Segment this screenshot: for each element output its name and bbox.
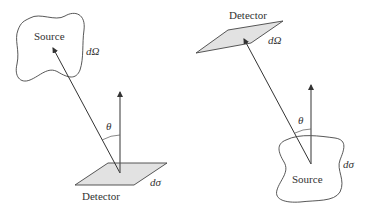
right-scatter-arrow [244,39,311,164]
right-angle-arc [295,129,311,133]
right-detector-label: Detector [229,9,267,21]
left-solid-angle-label: dΩ [86,45,100,57]
left-panel: Source dΩ dσ Detector θ [16,13,167,202]
right-source-region [277,136,344,203]
right-panel: Detector dΩ Source dσ θ [196,9,355,202]
right-source-label: Source [292,173,323,185]
left-source-region [16,13,84,81]
scattering-geometry-diagram: Source dΩ dσ Detector θ Detector dΩ Sour… [0,0,373,210]
left-detector-label: Detector [82,190,120,202]
right-angle-label: θ [298,114,304,126]
right-source-area-label: dσ [343,158,355,170]
left-source-label: Source [34,30,65,42]
left-angle-arc [102,135,120,140]
left-angle-label: θ [106,120,112,132]
right-solid-angle-label: dΩ [268,34,282,46]
left-scatter-arrow [53,48,120,173]
left-detector-area-label: dσ [150,176,162,188]
